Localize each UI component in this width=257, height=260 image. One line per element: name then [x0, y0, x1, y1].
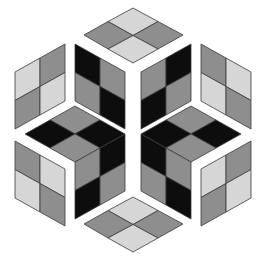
lower-right-panel — [201, 141, 251, 226]
figure-svg — [0, 0, 257, 260]
lower-left-panel — [15, 141, 65, 226]
top-panel — [84, 8, 183, 63]
hexagon-illusion-figure — [0, 0, 257, 260]
